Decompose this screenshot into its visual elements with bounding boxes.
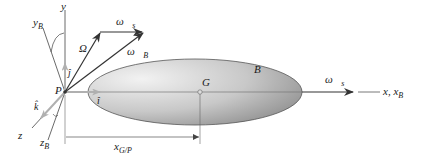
center-of-mass-point bbox=[198, 90, 202, 94]
yB-axis-line bbox=[43, 28, 65, 92]
j-unit-label: ĵ bbox=[66, 67, 72, 78]
omega-s-right-label: ω⃗s bbox=[325, 73, 344, 88]
center-of-mass-label: G bbox=[202, 76, 210, 88]
omega-s-top-label: ω⃗s bbox=[116, 15, 135, 30]
omega-precession-label: Ω⃗ bbox=[79, 42, 96, 54]
k-unit-label: k̂ bbox=[34, 100, 39, 112]
x-axis-label: x, xB bbox=[382, 85, 403, 100]
pivot-point bbox=[63, 90, 67, 94]
y-axis-label: y bbox=[60, 0, 66, 12]
pivot-label: P bbox=[54, 84, 62, 96]
rigid-body-diagram: y yB Ω⃗ ω⃗s ω⃗B ĵ î k̂ P G B z zB ω⃗s x,… bbox=[0, 0, 424, 157]
body-label: B bbox=[254, 63, 261, 75]
omega-b-label: ω⃗B bbox=[127, 45, 148, 60]
dimension-label: xG/P bbox=[113, 140, 132, 155]
angle-arc bbox=[51, 33, 64, 52]
zB-axis-label: zB bbox=[39, 136, 49, 151]
yB-axis-label: yB bbox=[32, 16, 43, 31]
z-axis-label: z bbox=[17, 129, 23, 141]
